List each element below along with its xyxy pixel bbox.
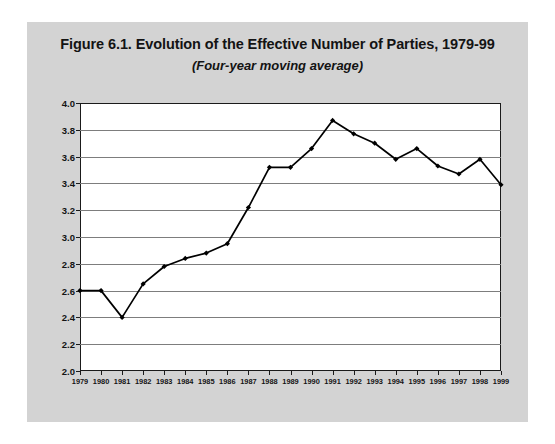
x-axis-tick-label: 1980	[93, 377, 109, 386]
x-axis-tick-mark	[480, 371, 481, 375]
x-axis-tick-label: 1988	[261, 377, 277, 386]
x-axis-tick-mark	[375, 371, 376, 375]
x-axis-tick-mark	[122, 371, 123, 375]
y-axis-tick-label: 3.8	[62, 124, 75, 135]
series-markers	[77, 118, 503, 320]
x-axis-tick-mark	[312, 371, 313, 375]
y-axis-tick-label: 2.4	[62, 312, 75, 323]
y-axis-tick-label: 2.0	[62, 366, 75, 377]
x-axis-tick-mark	[459, 371, 460, 375]
x-axis-tick-label: 1981	[114, 377, 130, 386]
x-axis-tick-mark	[80, 371, 81, 375]
y-axis-tick-label: 3.4	[62, 178, 75, 189]
x-axis-tick-label: 1990	[303, 377, 319, 386]
x-axis-tick-mark	[438, 371, 439, 375]
y-axis-tick-label: 3.2	[62, 205, 75, 216]
x-axis-tick-label: 1991	[324, 377, 340, 386]
y-axis-tick-label: 2.8	[62, 258, 75, 269]
x-axis-tick-mark	[206, 371, 207, 375]
data-point-marker	[204, 250, 209, 255]
x-axis-tick-label: 1993	[366, 377, 382, 386]
y-axis-tick-label: 3.6	[62, 151, 75, 162]
x-axis-tick-label: 1984	[177, 377, 193, 386]
x-axis-tick-mark	[354, 371, 355, 375]
x-axis-tick-label: 1987	[240, 377, 256, 386]
y-axis-tick-label: 3.0	[62, 232, 75, 243]
x-axis-tick-mark	[333, 371, 334, 375]
y-axis-tick-label: 2.2	[62, 339, 75, 350]
x-axis-tick-label: 1986	[219, 377, 235, 386]
x-axis-tick-mark	[143, 371, 144, 375]
x-axis-tick-label: 1995	[409, 377, 425, 386]
x-axis-tick-label: 1983	[156, 377, 172, 386]
x-axis-tick-mark	[269, 371, 270, 375]
x-axis-tick-mark	[164, 371, 165, 375]
data-point-marker	[77, 288, 82, 293]
x-axis-tick-mark	[227, 371, 228, 375]
x-axis-tick-label: 1998	[472, 377, 488, 386]
x-axis-tick-label: 1997	[451, 377, 467, 386]
x-axis-tick-label: 1999	[493, 377, 509, 386]
data-point-marker	[183, 256, 188, 261]
x-axis-tick-label: 1992	[345, 377, 361, 386]
x-axis-tick-mark	[291, 371, 292, 375]
series-line	[80, 120, 501, 317]
x-axis-tick-label: 1985	[198, 377, 214, 386]
figure-panel: Figure 6.1. Evolution of the Effective N…	[27, 22, 528, 422]
x-axis-tick-mark	[417, 371, 418, 375]
x-axis-tick-label: 1982	[135, 377, 151, 386]
x-axis-tick-mark	[248, 371, 249, 375]
x-axis-tick-mark	[185, 371, 186, 375]
figure-title: Figure 6.1. Evolution of the Effective N…	[27, 36, 528, 52]
x-axis-tick-mark	[396, 371, 397, 375]
x-axis-tick-label: 1989	[282, 377, 298, 386]
y-axis-tick-label: 4.0	[62, 98, 75, 109]
figure-subtitle: (Four-year moving average)	[27, 58, 528, 73]
x-axis-tick-label: 1994	[388, 377, 404, 386]
x-axis-tick-label: 1996	[430, 377, 446, 386]
line-series	[80, 103, 501, 371]
x-axis-tick-label: 1979	[72, 377, 88, 386]
x-axis-tick-mark	[501, 371, 502, 375]
y-axis-tick-label: 2.6	[62, 285, 75, 296]
x-axis-tick-mark	[101, 371, 102, 375]
plot-area: 4.03.83.63.43.23.02.82.62.42.22.0 197919…	[80, 103, 501, 371]
